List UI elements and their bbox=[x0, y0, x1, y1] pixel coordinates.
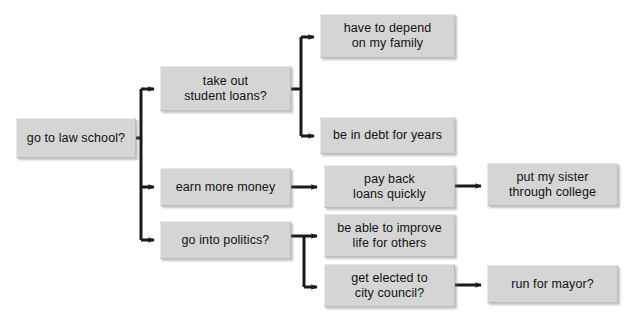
node-label: take out student loans? bbox=[180, 74, 271, 104]
edge-student-loans-trunk bbox=[291, 37, 301, 136]
node-earn-more-money[interactable]: earn more money bbox=[160, 168, 291, 206]
node-label: run for mayor? bbox=[507, 277, 598, 292]
node-have-to-depend-on-my-family[interactable]: have to depend on my family bbox=[320, 14, 455, 58]
node-take-out-student-loans[interactable]: take out student loans? bbox=[160, 66, 291, 111]
node-be-in-debt-for-years[interactable]: be in debt for years bbox=[320, 117, 455, 154]
node-put-my-sister-through-college[interactable]: put my sister through college bbox=[487, 163, 618, 206]
node-label: have to depend on my family bbox=[340, 21, 436, 51]
node-label: go into politics? bbox=[178, 233, 274, 248]
node-get-elected-to-city-council[interactable]: get elected to city council? bbox=[324, 264, 455, 307]
flowchart-canvas: go to law school? take out student loans… bbox=[0, 0, 635, 335]
edge-law-school-trunk bbox=[136, 89, 141, 240]
node-label: go to law school? bbox=[23, 131, 129, 146]
node-label: be able to improve life for others bbox=[333, 221, 446, 251]
node-pay-back-loans-quickly[interactable]: pay back loans quickly bbox=[324, 165, 455, 208]
node-label: get elected to city council? bbox=[347, 271, 431, 301]
node-label: pay back loans quickly bbox=[349, 172, 430, 202]
node-run-for-mayor[interactable]: run for mayor? bbox=[487, 265, 618, 303]
node-label: be in debt for years bbox=[329, 128, 446, 143]
edge-politics-trunk bbox=[291, 236, 304, 287]
node-label: put my sister through college bbox=[505, 170, 600, 200]
node-be-able-to-improve-life-for-others[interactable]: be able to improve life for others bbox=[324, 214, 455, 257]
node-go-to-law-school[interactable]: go to law school? bbox=[16, 118, 136, 158]
node-label: earn more money bbox=[172, 180, 279, 195]
node-go-into-politics[interactable]: go into politics? bbox=[160, 221, 291, 259]
